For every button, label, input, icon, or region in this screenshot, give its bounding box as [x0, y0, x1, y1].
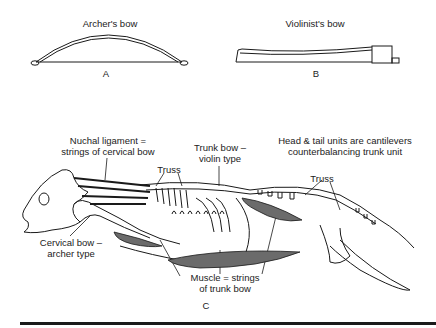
muscle-icon — [114, 198, 302, 268]
diagram-artwork — [0, 0, 436, 328]
archers-bow-icon — [31, 35, 188, 65]
skeleton-icon — [23, 170, 414, 290]
violinists-bow-icon — [236, 46, 399, 63]
bottom-rule — [20, 322, 436, 325]
